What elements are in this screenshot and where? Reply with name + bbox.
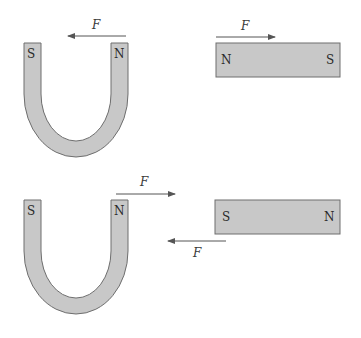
horseshoe-bottom-right-pole: N: [114, 204, 125, 218]
horseshoe-bottom-left-pole: S: [27, 204, 35, 218]
horseshoe-magnet-bottom: [24, 200, 128, 314]
bar-top-right-pole: S: [326, 53, 334, 67]
horseshoe-top-left-pole: S: [27, 47, 35, 61]
bar-magnet-bottom: [215, 200, 340, 234]
force-label-bar-top: F: [240, 19, 250, 33]
bar-bottom-left-pole: S: [222, 210, 230, 224]
bar-top-left-pole: N: [221, 53, 232, 67]
bottom-panel: S N F S N F: [24, 175, 340, 314]
bar-bottom-right-pole: N: [324, 210, 335, 224]
force-label-bar-bottom: F: [192, 246, 202, 260]
force-label-horseshoe-top: F: [91, 18, 101, 32]
horseshoe-top-right-pole: N: [114, 47, 125, 61]
force-label-horseshoe-bottom: F: [139, 175, 149, 189]
top-panel: S N F N S F: [24, 18, 340, 157]
magnet-force-diagram: S N F N S F S N F S N F: [0, 0, 361, 338]
horseshoe-magnet-top: [24, 43, 128, 157]
bar-magnet-top: [216, 43, 340, 77]
